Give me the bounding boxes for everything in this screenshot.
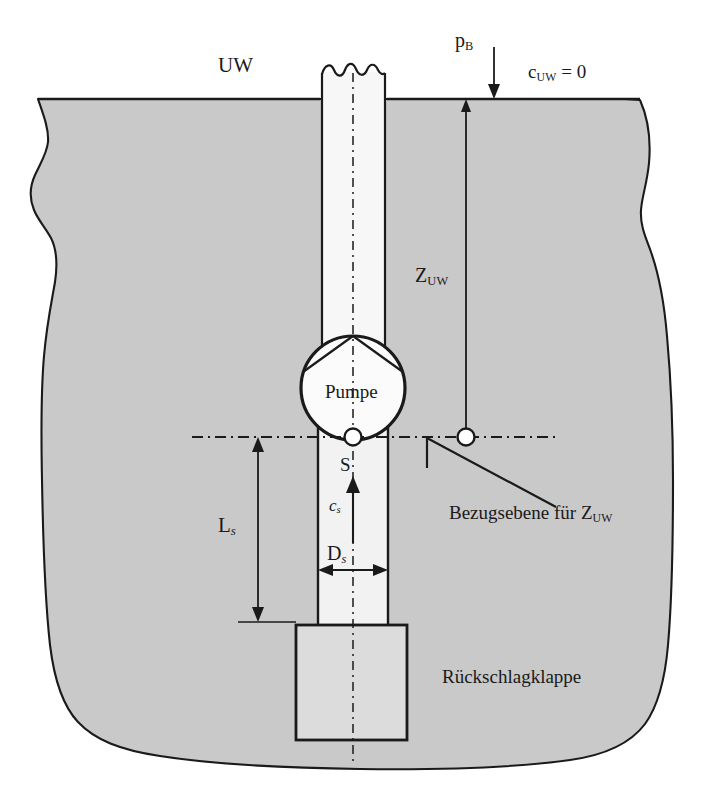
- label-pump: Pumpe: [325, 382, 378, 401]
- suction-point-marker: [345, 429, 362, 446]
- label-suction-point-s: S: [340, 455, 351, 474]
- label-velocity-cs: cs: [329, 497, 341, 516]
- label-check-valve: Rückschlagklappe: [442, 667, 581, 686]
- label-diameter-ds: Ds: [327, 543, 347, 565]
- label-datum-plane: Bezugsebene für ZUW: [449, 503, 613, 524]
- check-valve-box: [296, 625, 407, 740]
- datum-reference-point-marker: [458, 429, 475, 446]
- label-uw: UW: [218, 55, 253, 76]
- label-length-ls: Ls: [218, 515, 236, 537]
- label-dimension-zuw: ZUW: [415, 265, 448, 287]
- label-pressure-pb: pB: [455, 30, 474, 52]
- label-velocity-cuw: cUW = 0: [528, 62, 586, 83]
- diagram-canvas: UW pB cUW = 0 ZUW Pumpe S cs Ds Ls Bezug…: [0, 0, 722, 788]
- check-valve-body: [296, 625, 407, 740]
- pressure-pb-arrow: [488, 47, 500, 99]
